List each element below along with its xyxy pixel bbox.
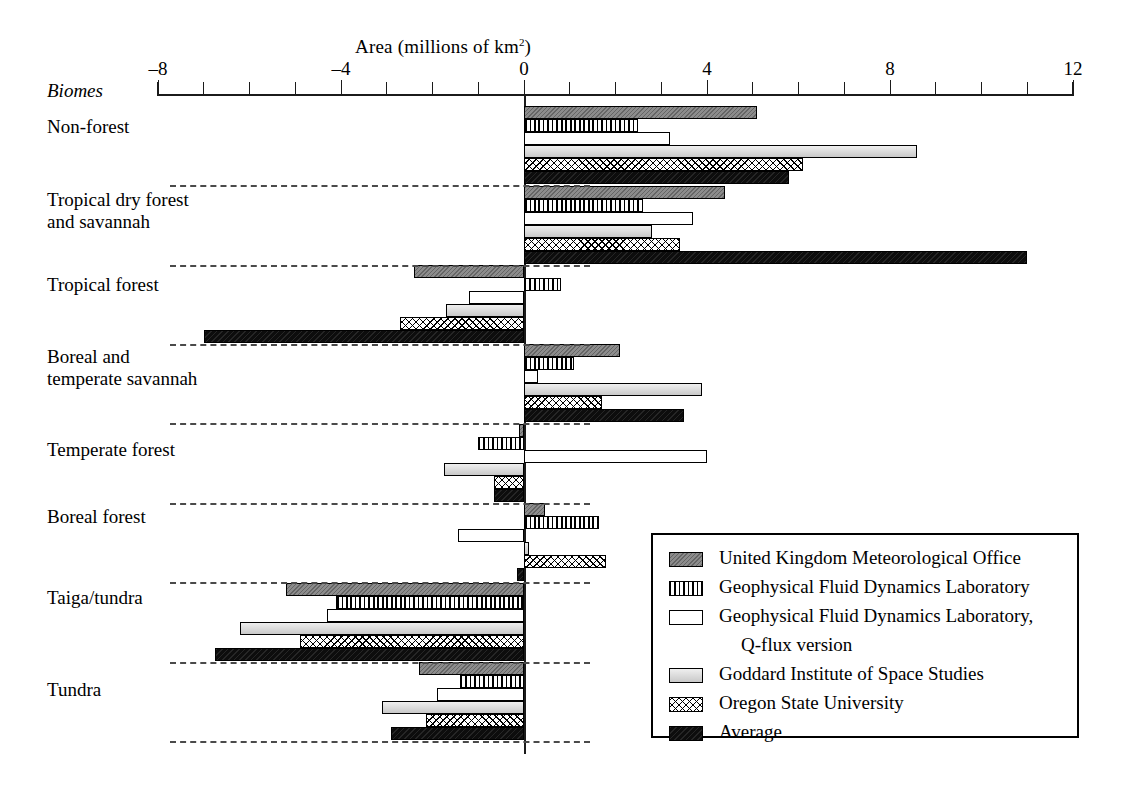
bar-giss [524, 383, 702, 396]
x-axis-tick-label: 12 [1064, 58, 1083, 80]
legend-swatch-ukmo [669, 552, 703, 567]
category-separator [170, 265, 590, 267]
legend-label-continuation-row: Q-flux version [653, 632, 1077, 661]
bar-ukmo [286, 583, 524, 596]
category-separator [170, 741, 590, 743]
bar-avg [524, 171, 789, 184]
axis-title-text: Area (millions of km [355, 36, 519, 57]
legend-item[interactable]: Geophysical Fluid Dynamics Laboratory, [653, 603, 1077, 632]
bar-gfdl [460, 675, 524, 688]
bar-group: Temperate forest [0, 424, 1125, 502]
bar-avg [524, 251, 1027, 264]
bar-gfdl [524, 516, 599, 529]
x-axis-tick [981, 82, 982, 94]
x-axis-tick [707, 80, 708, 94]
bar-gfdlq [524, 212, 693, 225]
bar-avg [204, 330, 524, 343]
category-label: Tropical forest [47, 274, 159, 296]
bar-giss [444, 463, 524, 476]
category-label: Taiga/tundra [47, 587, 143, 609]
legend-item[interactable]: United Kingdom Meteorological Office [653, 545, 1077, 574]
legend-label-continuation: Q-flux version [741, 634, 852, 656]
axis-title: Area (millions of km2) [355, 36, 531, 58]
x-axis-tick-label: 0 [519, 58, 529, 80]
bar-ukmo [524, 106, 757, 119]
x-axis-tick [203, 82, 204, 94]
x-axis-tick [478, 82, 479, 94]
bar-gfdl [524, 199, 643, 212]
legend-swatch-giss [669, 668, 703, 683]
x-axis-tick [569, 82, 570, 94]
x-axis-tick [844, 82, 845, 94]
category-label: Tundra [47, 679, 101, 701]
legend-label: Geophysical Fluid Dynamics Laboratory [719, 576, 1030, 598]
bar-giss [382, 701, 524, 714]
category-separator [170, 344, 590, 346]
category-label: Boreal forest [47, 506, 146, 528]
x-axis-tick [661, 82, 662, 94]
axis-title-suffix: ) [525, 36, 532, 57]
bar-gfdlq [524, 132, 670, 145]
legend-label: Goddard Institute of Space Studies [719, 663, 984, 685]
bar-gfdl [524, 357, 574, 370]
category-separator [170, 503, 590, 505]
bar-group: Tropical dry forest and savannah [0, 186, 1125, 264]
category-label: Non-forest [47, 116, 129, 138]
x-axis-tick [890, 80, 891, 94]
legend-item[interactable]: Goddard Institute of Space Studies [653, 661, 1077, 690]
x-axis-tick [524, 80, 525, 94]
bar-giss [446, 304, 524, 317]
bar-gfdl [524, 278, 561, 291]
x-axis-tick [752, 82, 753, 94]
x-axis-tick [615, 82, 616, 94]
legend: United Kingdom Meteorological OfficeGeop… [651, 533, 1079, 738]
bar-gfdl [524, 119, 638, 132]
x-axis-tick-label: –4 [332, 58, 351, 80]
legend-label: Average [719, 721, 782, 743]
legend-label: United Kingdom Meteorological Office [719, 547, 1021, 569]
category-separator [170, 423, 590, 425]
bar-avg [517, 568, 524, 581]
bar-gfdl [336, 596, 524, 609]
legend-item[interactable]: Oregon State University [653, 690, 1077, 719]
bar-giss [524, 542, 529, 555]
x-axis-tick [432, 82, 433, 94]
x-axis-tick [386, 82, 387, 94]
bar-giss [524, 145, 917, 158]
bar-osu [400, 317, 524, 330]
legend-swatch-gfdlq [669, 610, 703, 625]
chart-root: Area (millions of km2) Biomes –8–404812 … [0, 0, 1125, 786]
x-axis-tick [295, 82, 296, 94]
bar-osu [426, 714, 524, 727]
x-axis-tick-label: 4 [702, 58, 712, 80]
bar-osu [300, 635, 524, 648]
x-axis-tick [249, 82, 250, 94]
legend-swatch-osu [669, 697, 703, 712]
category-label: Boreal and temperate savannah [47, 346, 197, 390]
x-axis-tick [935, 82, 936, 94]
legend-item[interactable]: Geophysical Fluid Dynamics Laboratory [653, 574, 1077, 603]
x-axis-tick-label: –8 [149, 58, 168, 80]
bar-gfdlq [458, 529, 524, 542]
bar-osu [524, 396, 602, 409]
bar-group: Non-forest [0, 106, 1125, 184]
x-axis-tick [341, 80, 342, 94]
bar-gfdlq [524, 450, 707, 463]
bar-gfdl [478, 437, 524, 450]
bar-gfdlq [469, 291, 524, 304]
bar-osu [524, 555, 606, 568]
category-label: Tropical dry forest and savannah [47, 189, 189, 233]
bar-osu [494, 476, 524, 489]
bar-avg [391, 727, 524, 740]
bar-giss [240, 622, 524, 635]
legend-label: Geophysical Fluid Dynamics Laboratory, [719, 605, 1033, 627]
legend-item[interactable]: Average [653, 719, 1077, 748]
category-label: Temperate forest [47, 439, 175, 461]
x-axis-tick [798, 82, 799, 94]
bar-gfdlq [437, 688, 524, 701]
legend-swatch-avg [669, 726, 703, 741]
bar-group: Tropical forest [0, 265, 1125, 343]
x-axis-tick [1027, 82, 1028, 94]
legend-swatch-gfdl [669, 581, 703, 596]
bar-avg [524, 409, 684, 422]
